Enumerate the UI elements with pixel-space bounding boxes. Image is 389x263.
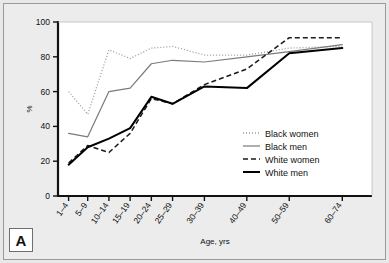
x-tick-label: 60–74 bbox=[322, 200, 344, 225]
figure-panel: 020406080100%1–45–910–1415–1920–2425–293… bbox=[0, 0, 389, 263]
y-tick-label: 100 bbox=[36, 17, 50, 27]
y-tick-label: 20 bbox=[41, 156, 51, 166]
y-tick-label: 80 bbox=[41, 52, 51, 62]
y-tick-label: 60 bbox=[41, 87, 51, 97]
x-tick-label: 50–59 bbox=[269, 200, 291, 225]
x-tick-label: 40–49 bbox=[227, 200, 249, 225]
legend-label: White men bbox=[265, 168, 308, 178]
legend-label: White women bbox=[265, 155, 320, 165]
x-tick-label: 25–29 bbox=[152, 200, 174, 225]
x-tick-label: 20–24 bbox=[131, 200, 153, 225]
y-tick-label: 40 bbox=[41, 121, 51, 131]
y-tick-label: 0 bbox=[45, 191, 50, 201]
x-axis-title: Age, yrs bbox=[200, 237, 229, 246]
panel-label: A bbox=[9, 228, 33, 252]
x-tick-label: 1–4 bbox=[54, 200, 70, 218]
y-axis-title: % bbox=[25, 105, 34, 112]
x-tick-label: 10–14 bbox=[89, 200, 111, 225]
x-tick-label: 15–19 bbox=[110, 200, 132, 225]
legend-label: Black women bbox=[265, 129, 319, 139]
plot-area bbox=[58, 22, 372, 196]
line-chart: 020406080100%1–45–910–1415–1920–2425–293… bbox=[0, 0, 389, 263]
legend-label: Black men bbox=[265, 142, 307, 152]
x-tick-label: 5–9 bbox=[73, 200, 89, 218]
x-tick-label: 30–39 bbox=[184, 200, 206, 225]
